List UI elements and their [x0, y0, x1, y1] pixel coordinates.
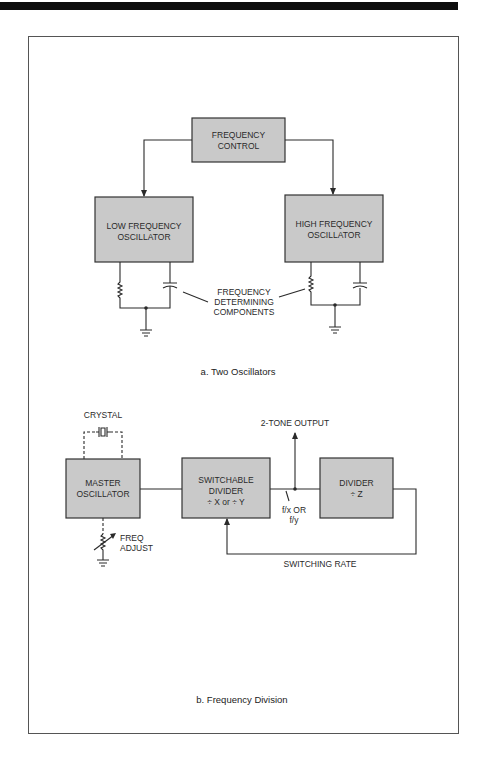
- high-osc-label-1: HIGH FREQUENCY: [296, 219, 373, 229]
- control-to-high-wire: [285, 140, 333, 194]
- fx-label-1: f/x OR: [282, 505, 306, 515]
- diagram-b-frequency-division: CRYSTAL MASTER OSCILLATOR FREQ ADJUST SW…: [66, 410, 416, 705]
- divider-z-label-2: ÷ Z: [350, 489, 362, 499]
- arrow-down-icon: [330, 188, 336, 195]
- leader-line-right: [279, 289, 305, 297]
- divider-z-block: DIVIDER ÷ Z: [320, 458, 393, 518]
- high-osc-label-2: OSCILLATOR: [307, 230, 360, 240]
- arrow-up-icon: [224, 518, 230, 525]
- caption-b: b. Frequency Division: [196, 694, 287, 705]
- crystal-icon: [84, 427, 122, 459]
- diagram-a-two-oscillators: FREQUENCY CONTROL LOW FREQUENCY OSCILLAT…: [95, 118, 383, 377]
- frequency-control-label-1: FREQUENCY: [212, 130, 266, 140]
- low-osc-rc-network: [118, 262, 177, 336]
- switching-rate-label: SWITCHING RATE: [283, 559, 356, 569]
- low-osc-label-2: OSCILLATOR: [117, 232, 170, 242]
- high-osc-rc-network: [309, 262, 367, 333]
- resistor-icon: [118, 262, 170, 308]
- master-osc-label-1: MASTER: [85, 478, 120, 488]
- switchable-divider-block: SWITCHABLE DIVIDER ÷ X or ÷ Y: [182, 458, 270, 518]
- low-frequency-oscillator-block: LOW FREQUENCY OSCILLATOR: [95, 197, 193, 262]
- components-label-2: DETERMINING: [214, 297, 274, 307]
- fx-label-2: f/y: [290, 515, 300, 525]
- switchable-divider-label-2: DIVIDER: [209, 486, 243, 496]
- caption-a: a. Two Oscillators: [201, 366, 276, 377]
- two-tone-output-label: 2-TONE OUTPUT: [261, 418, 329, 428]
- master-osc-label-2: OSCILLATOR: [76, 489, 129, 499]
- frequency-control-label-2: CONTROL: [218, 141, 260, 151]
- master-oscillator-block: MASTER OSCILLATOR: [66, 459, 140, 518]
- leader-line-left: [183, 292, 208, 302]
- ground-icon: [140, 308, 152, 336]
- capacitor-icon: [353, 262, 367, 288]
- arrow-down-icon: [141, 190, 147, 197]
- ground-icon: [329, 305, 341, 333]
- block-diagram: FREQUENCY CONTROL LOW FREQUENCY OSCILLAT…: [0, 0, 484, 757]
- variable-resistor-icon: [94, 518, 116, 566]
- switchable-divider-label-1: SWITCHABLE: [198, 475, 254, 485]
- crystal-label: CRYSTAL: [84, 410, 123, 420]
- components-label-3: COMPONENTS: [214, 307, 275, 317]
- components-label-1: FREQUENCY: [217, 287, 271, 297]
- high-frequency-oscillator-block: HIGH FREQUENCY OSCILLATOR: [285, 195, 383, 262]
- frequency-control-block: FREQUENCY CONTROL: [192, 118, 285, 162]
- arrow-up-icon: [292, 432, 298, 439]
- freq-adjust-label-1: FREQ: [120, 533, 144, 543]
- divider-z-label-1: DIVIDER: [339, 478, 373, 488]
- switchable-divider-label-3: ÷ X or ÷ Y: [207, 497, 245, 507]
- freq-adjust-label-2: ADJUST: [120, 543, 153, 553]
- resistor-icon: [309, 262, 360, 305]
- capacitor-icon: [163, 262, 177, 288]
- fx-leader-line: [286, 491, 289, 501]
- low-osc-label-1: LOW FREQUENCY: [106, 221, 181, 231]
- control-to-low-wire: [144, 140, 192, 196]
